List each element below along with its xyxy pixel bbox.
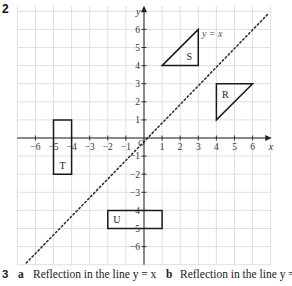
y-tick-label: −1 xyxy=(130,151,140,161)
x-tick-label: 3 xyxy=(196,142,201,152)
part-a-text: Reflection in the line y = x xyxy=(33,268,156,280)
part-b-text: Reflection in the line y = −x xyxy=(180,268,292,280)
shape-label-t: T xyxy=(59,160,65,171)
y-tick-label: 1 xyxy=(135,115,140,125)
y-tick-label: 2 xyxy=(135,97,140,107)
y-tick-label: −3 xyxy=(130,188,140,198)
y-tick-label: 4 xyxy=(135,61,140,71)
line-label: y = x xyxy=(201,28,223,39)
part-a-label: a xyxy=(18,268,24,280)
question-number-3: 3 xyxy=(2,268,8,280)
coordinate-grid: −6−5−4−3−2−1123456654321−1−2−3−4−5−6xyOy… xyxy=(0,0,292,266)
x-tick-label: 4 xyxy=(214,142,219,152)
x-tick-label: 2 xyxy=(178,142,183,152)
shape-label-u: U xyxy=(113,214,121,225)
shape-label-r: R xyxy=(222,89,229,100)
x-tick-label: −2 xyxy=(103,142,113,152)
y-tick-label: 5 xyxy=(135,43,140,53)
y-axis-label: y xyxy=(135,6,141,17)
x-tick-label: −3 xyxy=(85,142,95,152)
x-tick-label: 1 xyxy=(160,142,165,152)
part-b-label: b xyxy=(166,268,172,280)
y-tick-label: 3 xyxy=(135,79,140,89)
question-3-answer: 3 a Reflection in the line y = x b Refle… xyxy=(0,268,292,284)
y-tick-label: 6 xyxy=(135,25,140,35)
x-tick-label: 5 xyxy=(232,142,237,152)
y-tick-label: −6 xyxy=(130,242,140,252)
x-tick-label: −6 xyxy=(30,142,40,152)
y-axis-arrow-icon xyxy=(141,6,147,12)
origin-label: O xyxy=(138,138,145,148)
x-tick-label: 6 xyxy=(250,142,255,152)
shape-label-s: S xyxy=(186,51,192,62)
y-tick-label: −2 xyxy=(130,170,140,180)
x-axis-label: x xyxy=(268,141,274,152)
